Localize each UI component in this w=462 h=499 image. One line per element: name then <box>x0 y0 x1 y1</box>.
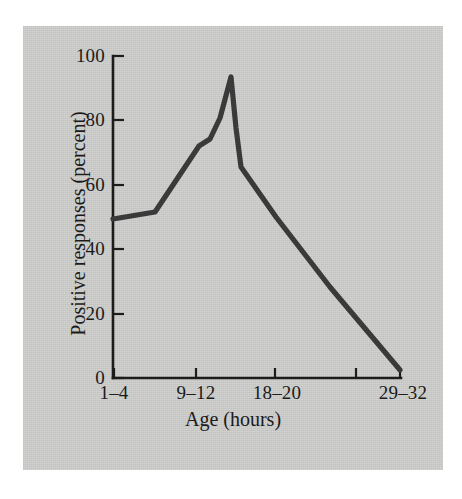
y-axis-title: Positive responses (percent) <box>67 84 90 364</box>
x-tick-label-29-32: 29–32 <box>364 382 442 404</box>
x-axis-title: Age (hours) <box>23 408 443 431</box>
x-tick-label-1-4: 1–4 <box>80 382 148 404</box>
x-tick-label-18-20: 18–20 <box>238 382 316 404</box>
figure-container: 100 80 60 40 20 0 1–4 9–12 18–20 29–32 A… <box>0 0 462 499</box>
y-tick-label-100: 100 <box>43 45 105 67</box>
x-tick-label-9-12: 9–12 <box>160 382 232 404</box>
data-series-line <box>113 77 400 370</box>
